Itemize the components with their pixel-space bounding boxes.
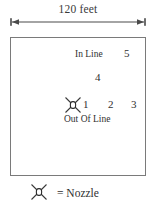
diagram-canvas: 120 feet In Line 5 4 1 2 3 Out Of Line =… [0, 0, 156, 205]
nozzle-position-2: 2 [108, 98, 114, 110]
nozzle-icon [64, 96, 82, 114]
legend-label: = Nozzle [57, 187, 99, 199]
nozzle-position-1: 1 [83, 98, 89, 110]
nozzle-position-3: 3 [131, 98, 137, 110]
legend-nozzle-icon [30, 183, 48, 201]
nozzle-position-5: 5 [124, 47, 130, 59]
nozzle-position-4: 4 [95, 71, 101, 83]
in-line-label: In Line [75, 49, 103, 59]
dimension-arrow [8, 15, 148, 29]
dimension-label: 120 feet [0, 3, 156, 15]
out-of-line-label: Out Of Line [64, 114, 110, 124]
